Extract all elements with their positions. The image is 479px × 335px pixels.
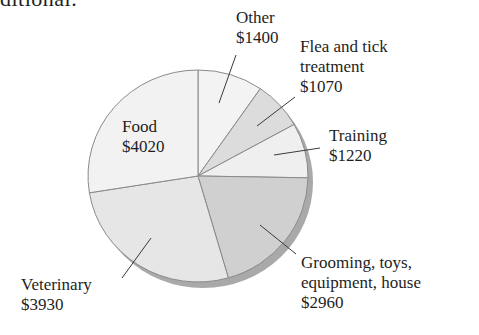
label-veterinary: Veterinary $3930 (21, 275, 92, 315)
pie-slices (88, 70, 308, 282)
label-other: Other $1400 (236, 8, 279, 48)
label-grooming: Grooming, toys, equipment, house $2960 (301, 253, 421, 313)
label-flea-and-tick: Flea and tick treatment $1070 (300, 37, 388, 97)
label-food: Food $4020 (122, 117, 165, 157)
label-training: Training $1220 (329, 126, 387, 166)
